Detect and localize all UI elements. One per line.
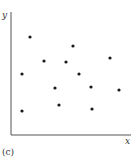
- scatter-plot: y x: [0, 0, 137, 161]
- data-point: [20, 72, 23, 75]
- data-point: [57, 103, 60, 106]
- data-point: [53, 86, 56, 89]
- data-point: [89, 85, 92, 88]
- y-axis-label: y: [1, 10, 8, 20]
- data-point: [108, 56, 111, 59]
- data-point: [28, 35, 31, 38]
- data-point: [20, 109, 23, 112]
- data-point: [71, 44, 74, 47]
- data-point: [90, 107, 93, 110]
- data-points: [20, 35, 120, 112]
- data-point: [64, 60, 67, 63]
- data-point: [42, 59, 45, 62]
- data-point: [77, 72, 80, 75]
- x-axis-label: x: [125, 136, 130, 146]
- data-point: [117, 88, 120, 91]
- panel-label: (c): [2, 147, 14, 157]
